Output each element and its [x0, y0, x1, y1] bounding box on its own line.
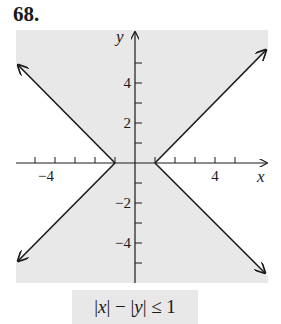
caption-var-x: x [98, 296, 106, 318]
caption-part-leq: | ≤ 1 [143, 296, 176, 318]
y-axis-label: y [114, 27, 124, 46]
x-tick-label-neg4: −4 [38, 168, 54, 184]
y-tick-label-neg2: −2 [115, 195, 131, 211]
caption-var-y: y [134, 296, 142, 318]
y-tick-label-2: 2 [124, 115, 132, 131]
y-tick-label-neg4: −4 [115, 235, 131, 251]
caption-part-minus: | − | [106, 296, 134, 318]
inequality-graph: −4 4 4 2 −2 −4 x y [0, 0, 281, 324]
x-axis-label: x [256, 167, 265, 186]
y-tick-label-4: 4 [124, 75, 132, 91]
x-tick-label-4: 4 [211, 168, 219, 184]
inequality-caption: |x| − |y| ≤ 1 [72, 290, 198, 324]
